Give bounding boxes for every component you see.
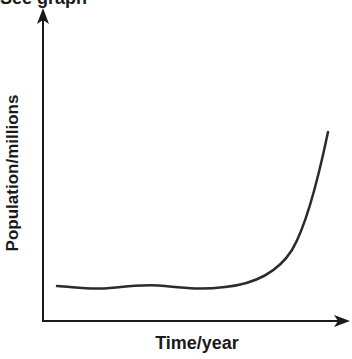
y-axis-label: Population/millions (3, 95, 23, 252)
x-axis-label: Time/year (155, 333, 239, 354)
population-curve (57, 132, 328, 289)
chart-plot (0, 0, 352, 359)
